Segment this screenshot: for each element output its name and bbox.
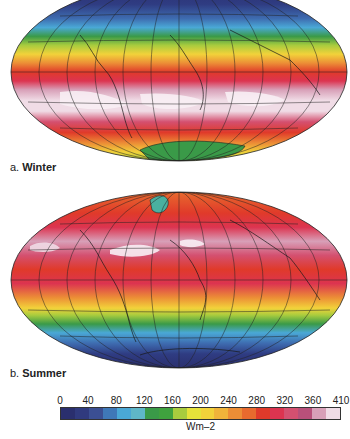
colorbar-swatch <box>159 408 173 419</box>
colorbar-tick: 0 <box>57 395 63 406</box>
colorbar-swatch <box>326 408 340 419</box>
colorbar-swatch <box>214 408 228 419</box>
colorbar-swatch <box>131 408 145 419</box>
panel-label-prefix: b. <box>10 367 19 379</box>
colorbar-tick: 410 <box>333 395 350 406</box>
colorbar-swatch <box>75 408 89 419</box>
colorbar-unit-label: Wm–2 <box>60 421 341 432</box>
colorbar-swatch <box>89 408 103 419</box>
colorbar-swatch <box>228 408 242 419</box>
winter-map <box>0 0 350 164</box>
colorbar-swatch <box>103 408 117 419</box>
colorbar-swatch <box>117 408 131 419</box>
colorbar-tick: 360 <box>305 395 322 406</box>
colorbar-tick: 320 <box>276 395 293 406</box>
colorbar-swatch <box>242 408 256 419</box>
colorbar-tick: 200 <box>192 395 209 406</box>
colorbar-tick: 80 <box>111 395 122 406</box>
colorbar-swatch <box>298 408 312 419</box>
panel-label-name: Summer <box>22 367 66 379</box>
colorbar-swatch <box>284 408 298 419</box>
colorbar-tick: 240 <box>220 395 237 406</box>
colorbar-tick: 280 <box>248 395 265 406</box>
winter-panel-label: a. Winter <box>10 161 56 173</box>
colorbar-swatches <box>60 407 341 420</box>
colorbar-swatch <box>270 408 284 419</box>
panel-label-prefix: a. <box>10 161 19 173</box>
colorbar-tick: 160 <box>164 395 181 406</box>
colorbar-ticks: 0 40 80 120 160 200 240 280 320 360 410 <box>60 395 341 407</box>
colorbar-tick: 40 <box>83 395 94 406</box>
summer-panel-label: b. Summer <box>10 367 66 379</box>
colorbar-swatch <box>312 408 326 419</box>
colorbar-swatch <box>61 408 75 419</box>
summer-map <box>0 186 350 372</box>
colorbar: 0 40 80 120 160 200 240 280 320 360 410 … <box>60 395 341 439</box>
colorbar-swatch <box>173 408 187 419</box>
colorbar-swatch <box>201 408 215 419</box>
colorbar-tick: 120 <box>136 395 153 406</box>
colorbar-swatch <box>145 408 159 419</box>
colorbar-swatch <box>187 408 201 419</box>
panel-label-name: Winter <box>22 161 56 173</box>
colorbar-swatch <box>256 408 270 419</box>
